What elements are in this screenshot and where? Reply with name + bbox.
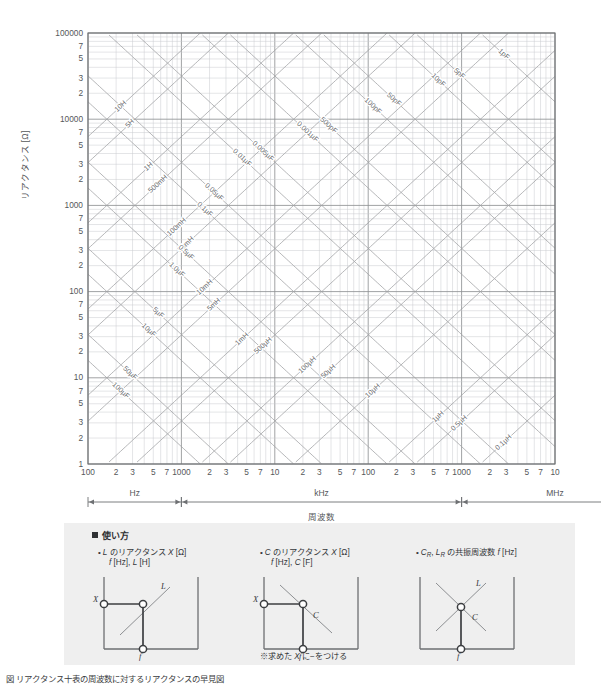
y-tick-label: 7 xyxy=(39,386,83,396)
square-bullet-icon xyxy=(92,532,98,538)
x-tick-label: 1000 xyxy=(168,467,194,477)
figure-caption: 図 リアクタンス十表の周波数に対するリアクタンスの早見図 xyxy=(6,672,601,685)
reactance-nomogram: 10H10H5H5H1H1H500mH500mH100mH100mH50mH50… xyxy=(0,0,601,520)
y-tick-label: 7 xyxy=(39,41,83,51)
resonance-diagram: f L C xyxy=(406,573,528,661)
x-tick-label: 10 xyxy=(542,467,568,477)
y-tick-label: 5 xyxy=(39,312,83,322)
usage-item-label: •CR, LR の共振周波数 f [Hz] xyxy=(416,547,581,560)
diagonal-line-label: 0.005µF xyxy=(251,139,277,164)
diagonal-line-label: 500mH xyxy=(146,172,169,194)
y-tick-label: 100 xyxy=(39,286,83,296)
y-tick-label: 3 xyxy=(39,417,83,427)
y-tick-label: 3 xyxy=(39,73,83,83)
usage-item-capacitive: •C のリアクタンス X [Ω] f [Hz], C [F] xyxy=(260,547,425,567)
unit-bracket-svg xyxy=(0,488,601,522)
usage-heading: 使い方 xyxy=(92,529,130,542)
usage-note: ※求めた X に−をつける xyxy=(260,649,347,661)
diagonal-line-label: 10mH xyxy=(194,277,214,297)
y-tick-label: 7 xyxy=(39,213,83,223)
usage-item-label: •C のリアクタンス X [Ω] xyxy=(260,547,425,558)
x-tick-label: 100 xyxy=(355,467,381,477)
diagonal-lines xyxy=(88,33,555,464)
x-tick-label: 10 xyxy=(262,467,288,477)
y-tick-label: 10000 xyxy=(39,114,83,124)
L-reactance-diagram: X f L xyxy=(90,573,212,661)
y-tick-label: 5 xyxy=(39,140,83,150)
y-axis-title: リアクタンス [Ω] xyxy=(18,131,30,200)
svg-text:L: L xyxy=(475,578,481,588)
diagonal-line-label: 0.1µH xyxy=(493,432,513,452)
y-tick-label: 3 xyxy=(39,245,83,255)
y-tick-label: 2 xyxy=(39,346,83,356)
y-tick-label: 2 xyxy=(39,260,83,270)
y-tick-label: 3 xyxy=(39,159,83,169)
y-tick-label: 2 xyxy=(39,174,83,184)
y-tick-label: 5 xyxy=(39,226,83,236)
usage-item-inductive: •L のリアクタンス X [Ω] f [Hz], L [H] xyxy=(98,547,263,567)
usage-item-label: •L のリアクタンス X [Ω] xyxy=(98,547,263,558)
svg-text:L: L xyxy=(160,581,166,591)
C-reactance-diagram: X f C xyxy=(250,573,372,661)
svg-text:C: C xyxy=(313,610,319,620)
svg-text:X: X xyxy=(252,594,259,604)
y-tick-label: 7 xyxy=(39,127,83,137)
y-tick-label: 100000 xyxy=(39,28,83,38)
usage-item-sublabel: f [Hz], L [H] xyxy=(109,558,263,567)
svg-text:C: C xyxy=(472,612,478,622)
usage-item-resonance: •CR, LR の共振周波数 f [Hz] xyxy=(416,547,581,560)
y-tick-label: 10 xyxy=(39,372,83,382)
x-tick-label: 1000 xyxy=(449,467,475,477)
usage-panel: 使い方 •L のリアクタンス X [Ω] f [Hz], L [H] •C のリ… xyxy=(64,523,575,665)
usage-item-sublabel: f [Hz], C [F] xyxy=(271,558,425,567)
y-tick-label: 3 xyxy=(39,331,83,341)
y-tick-label: 2 xyxy=(39,88,83,98)
svg-text:X: X xyxy=(92,594,99,604)
y-tick-label: 7 xyxy=(39,299,83,309)
x-tick-label: 100 xyxy=(75,467,101,477)
y-tick-label: 5 xyxy=(39,53,83,63)
y-tick-label: 5 xyxy=(39,398,83,408)
diagonal-line-label: 1mH xyxy=(233,330,250,347)
y-tick-label: 1000 xyxy=(39,200,83,210)
y-tick-label: 2 xyxy=(39,433,83,443)
nomogram-plot: 10H10H5H5H1H1H500mH500mH100mH100mH50mH50… xyxy=(0,0,601,520)
